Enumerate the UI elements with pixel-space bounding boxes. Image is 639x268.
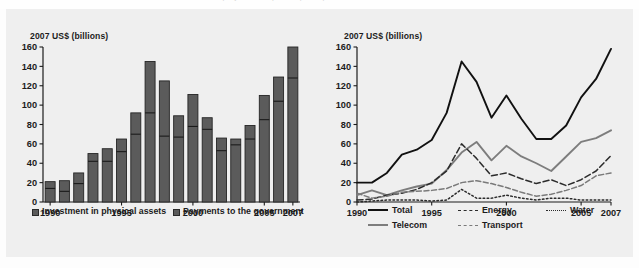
- bar-1998: [159, 81, 169, 202]
- bar-2002: [216, 138, 226, 202]
- cropped-caption-strip: Investment in infrastructure projects wi…: [0, 0, 639, 9]
- line-series-total: [357, 49, 611, 183]
- bar-2001: [202, 118, 212, 202]
- bar-1994: [102, 149, 112, 202]
- legend-label-payments: Payments to the government: [183, 206, 304, 216]
- bar-2005: [259, 95, 269, 202]
- bar-1992: [74, 173, 84, 202]
- legend-item-energy: Energy: [458, 205, 512, 216]
- bar-2000: [188, 94, 198, 202]
- line-series-water: [357, 189, 611, 202]
- svg-text:2007: 2007: [601, 208, 621, 218]
- legend-label-water: Water: [570, 205, 594, 215]
- legend-label-total: Total: [392, 205, 412, 215]
- right-chart-panel: 2007 US$ (billions) 02040608010012014016…: [322, 9, 631, 257]
- svg-text:0: 0: [346, 197, 351, 207]
- svg-text:40: 40: [27, 158, 37, 168]
- svg-text:80: 80: [27, 120, 37, 130]
- bar-2006: [274, 77, 284, 202]
- figure-page: Investment in infrastructure projects wi…: [0, 0, 639, 268]
- legend-line-transport-icon: [458, 225, 478, 226]
- legend-label-transport: Transport: [482, 220, 523, 230]
- legend-line-water-icon: [546, 210, 566, 211]
- svg-text:20: 20: [27, 178, 37, 188]
- cropped-caption-text: Investment in infrastructure projects wi…: [118, 0, 346, 1]
- bar-1995: [117, 139, 127, 202]
- svg-text:40: 40: [341, 158, 351, 168]
- bar-1996: [131, 113, 141, 202]
- bar-1999: [174, 116, 184, 202]
- svg-text:60: 60: [27, 139, 37, 149]
- legend-line-energy-icon: [458, 210, 478, 211]
- legend-swatch-icon: [173, 209, 180, 216]
- svg-text:60: 60: [341, 139, 351, 149]
- bar-2003: [231, 139, 241, 202]
- left-chart-plot: 0204060801001201401601990199520002005200…: [8, 39, 320, 249]
- legend-item-telecom: Telecom: [368, 220, 427, 231]
- bar-1997: [145, 62, 155, 202]
- legend-item-total: Total: [368, 205, 412, 216]
- svg-text:120: 120: [336, 81, 351, 91]
- figure-canvas: 2007 US$ (billions) 02040608010012014016…: [6, 9, 633, 257]
- bar-1990: [45, 182, 55, 202]
- legend-label-energy: Energy: [482, 205, 512, 215]
- svg-text:80: 80: [341, 120, 351, 130]
- svg-text:100: 100: [22, 100, 37, 110]
- right-chart-plot: 0204060801001201401601990199520002005200…: [322, 39, 631, 249]
- legend-line-telecom-icon: [368, 224, 388, 226]
- legend-line-total-icon: [368, 209, 388, 211]
- legend-label-telecom: Telecom: [392, 220, 427, 230]
- svg-text:100: 100: [336, 100, 351, 110]
- left-chart-panel: 2007 US$ (billions) 02040608010012014016…: [8, 9, 320, 257]
- line-series-transport: [357, 173, 611, 198]
- legend-label-investment: Investment in physical assets: [42, 206, 166, 216]
- svg-text:1995: 1995: [421, 208, 441, 218]
- legend-item-investment: Investment in physical assets: [32, 206, 166, 217]
- svg-text:160: 160: [336, 42, 351, 52]
- svg-text:1990: 1990: [347, 208, 367, 218]
- bar-2007: [288, 47, 298, 202]
- legend-swatch-icon: [32, 209, 39, 216]
- svg-text:20: 20: [341, 178, 351, 188]
- svg-text:120: 120: [22, 81, 37, 91]
- svg-text:160: 160: [22, 42, 37, 52]
- legend-item-payments: Payments to the government: [173, 206, 304, 217]
- legend-item-water: Water: [546, 205, 594, 216]
- svg-text:140: 140: [22, 62, 37, 72]
- svg-text:140: 140: [336, 62, 351, 72]
- legend-item-transport: Transport: [458, 220, 523, 231]
- bar-2004: [245, 125, 255, 202]
